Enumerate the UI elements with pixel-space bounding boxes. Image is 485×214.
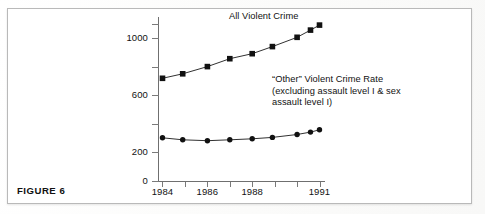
data-point-marker — [180, 137, 185, 142]
data-point-marker — [160, 76, 166, 82]
data-point-marker — [317, 22, 323, 28]
data-point-marker — [180, 71, 186, 77]
data-point-marker — [308, 27, 314, 33]
data-point-marker — [205, 138, 210, 143]
data-point-marker — [270, 135, 275, 140]
data-point-marker — [317, 127, 322, 132]
data-point-marker — [205, 64, 211, 70]
data-point-marker — [308, 129, 313, 134]
data-series-layer — [0, 0, 485, 214]
other-label-line-2: (excluding assault level I & sex — [272, 86, 401, 96]
data-point-marker — [249, 51, 255, 57]
series-label-all-violent-crime: All Violent Crime — [229, 11, 298, 23]
series-label-other-violent-crime: “Other” Violent Crime Rate (excluding as… — [272, 74, 401, 109]
data-point-marker — [294, 35, 300, 41]
figure-caption-label: FIGURE 6 — [17, 185, 65, 196]
data-point-marker — [227, 56, 233, 62]
chart-plot-area: 02006001000 1984198619881991 — [0, 0, 485, 214]
other-label-line-3: assault level I) — [272, 97, 332, 107]
data-point-marker — [227, 137, 232, 142]
data-point-marker — [294, 132, 299, 137]
series-line-0 — [163, 25, 320, 78]
data-point-marker — [160, 135, 165, 140]
figure-page: 02006001000 1984198619881991 All Violent… — [0, 0, 485, 214]
data-point-marker — [270, 44, 276, 50]
data-point-marker — [250, 136, 255, 141]
other-label-line-1: “Other” Violent Crime Rate — [272, 74, 383, 84]
